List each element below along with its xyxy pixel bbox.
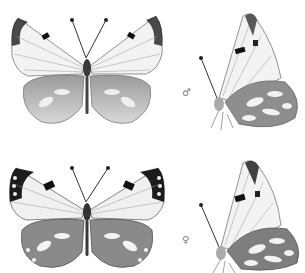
male-dorsal-butterfly bbox=[6, 6, 166, 131]
female-symbol: ♀ bbox=[182, 235, 189, 245]
male-lateral-butterfly bbox=[195, 6, 303, 136]
male-symbol: ♂ bbox=[182, 88, 191, 98]
female-lateral-butterfly bbox=[195, 155, 303, 273]
female-dorsal-butterfly bbox=[6, 162, 166, 272]
